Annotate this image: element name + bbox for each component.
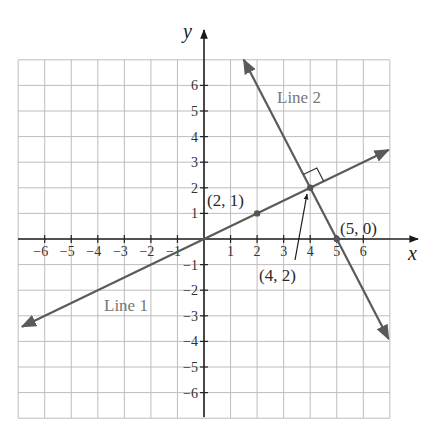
y-tick-label: 2 xyxy=(191,181,198,196)
y-tick-label: −3 xyxy=(183,309,198,324)
x-tick-label: −2 xyxy=(139,244,154,259)
x-tick-label: 4 xyxy=(307,244,314,259)
y-axis-label: y xyxy=(181,20,192,43)
x-tick-label: −5 xyxy=(60,244,75,259)
x-tick-label: −4 xyxy=(86,244,101,259)
x-tick-label: 1 xyxy=(227,244,234,259)
point-4-2 xyxy=(307,185,313,191)
y-tick-label: 3 xyxy=(191,155,198,170)
x-tick-label: 5 xyxy=(333,244,340,259)
y-tick-label: −1 xyxy=(183,258,198,273)
point-2-1 xyxy=(254,210,260,216)
y-tick-label: −6 xyxy=(183,386,198,401)
x-tick-label: 3 xyxy=(280,244,287,259)
y-tick-label: −5 xyxy=(183,360,198,375)
line-2-label: Line 2 xyxy=(277,88,321,107)
x-tick-label: −6 xyxy=(33,244,48,259)
point-label-4-2: (4, 2) xyxy=(259,266,296,285)
coordinate-plane-figure: −6−5−4−3−2−1123456654321−1−2−3−4−5−6 x y… xyxy=(0,0,423,439)
point-label-5-0: (5, 0) xyxy=(340,219,377,238)
y-tick-label: 4 xyxy=(191,130,198,145)
line-1-label: Line 1 xyxy=(104,296,148,315)
x-tick-label: 6 xyxy=(360,244,367,259)
x-tick-label: 2 xyxy=(254,244,261,259)
point-label-2-1: (2, 1) xyxy=(207,191,244,210)
y-tick-label: 6 xyxy=(191,78,198,93)
y-tick-label: −2 xyxy=(183,283,198,298)
point-5-0 xyxy=(334,236,340,242)
y-tick-label: −4 xyxy=(183,334,198,349)
y-tick-label: 1 xyxy=(191,206,198,221)
pointer-arrow xyxy=(295,194,307,260)
x-axis-label: x xyxy=(407,242,417,264)
y-tick-label: 5 xyxy=(191,104,198,119)
x-tick-label: −3 xyxy=(113,244,128,259)
